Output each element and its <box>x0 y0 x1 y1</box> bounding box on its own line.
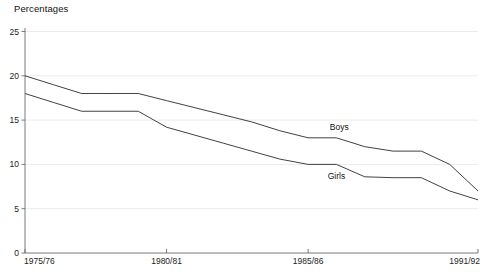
series-line-girls <box>25 94 478 200</box>
series-label-boys: Boys <box>330 122 349 132</box>
x-tick-label: 1980/81 <box>151 256 182 266</box>
x-tick-label: 1975/76 <box>24 256 55 266</box>
y-tick-label: 20 <box>10 71 20 81</box>
line-chart-plot: 0510152025 1975/761980/811985/861991/92 … <box>0 0 486 277</box>
chart-figure: Percentages 0510152025 1975/761980/81198… <box>0 0 486 277</box>
y-tick-label: 10 <box>10 159 20 169</box>
x-tick-label: 1985/86 <box>293 256 324 266</box>
series-line-boys <box>25 76 478 191</box>
series-inline-labels-group: BoysGirls <box>328 122 349 182</box>
gridlines-group <box>25 32 478 209</box>
y-tick-label: 25 <box>10 27 20 37</box>
cropped-caption-text <box>0 272 486 277</box>
y-tick-label: 15 <box>10 115 20 125</box>
y-tick-label: 0 <box>14 248 19 258</box>
data-series-group <box>25 76 478 200</box>
y-tick-label: 5 <box>14 204 19 214</box>
y-axis-ticks-group: 0510152025 <box>10 27 25 259</box>
x-tick-label: 1991/92 <box>449 256 480 266</box>
series-label-girls: Girls <box>328 171 345 181</box>
x-axis-ticks-group: 1975/761980/811985/861991/92 <box>24 249 480 266</box>
